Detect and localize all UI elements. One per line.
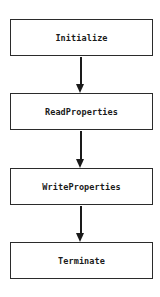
node-terminate: Terminate	[10, 242, 153, 279]
arrowhead-icon	[76, 159, 84, 168]
arrowhead-icon	[76, 84, 84, 93]
arrow-initialize-to-readproperties	[80, 57, 82, 93]
node-readproperties: ReadProperties	[10, 93, 153, 130]
node-label: ReadProperties	[45, 107, 118, 117]
node-writeproperties: WriteProperties	[10, 168, 153, 205]
arrowhead-icon	[76, 233, 84, 242]
node-initialize: Initialize	[10, 19, 153, 56]
arrow-writeproperties-to-terminate	[80, 206, 82, 242]
node-label: Terminate	[58, 256, 105, 266]
arrow-readproperties-to-writeproperties	[80, 131, 82, 168]
node-label: Initialize	[55, 33, 107, 43]
node-label: WriteProperties	[42, 182, 120, 192]
